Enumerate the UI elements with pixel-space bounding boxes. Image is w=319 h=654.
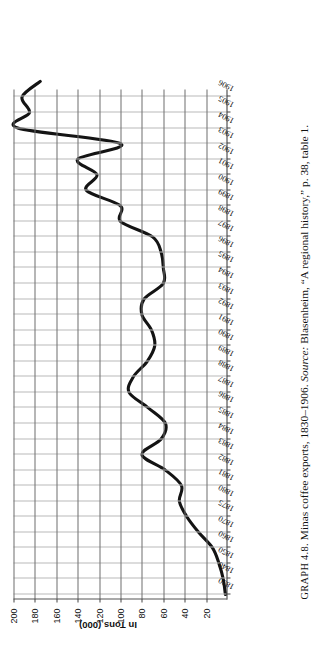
category-gridline [13, 158, 226, 159]
category-gridline [13, 593, 226, 594]
value-axis-title: In Tons (000) [1, 620, 215, 631]
category-gridline [13, 142, 226, 143]
category-gridline [13, 562, 226, 563]
category-gridline [13, 313, 226, 314]
category-gridline [13, 251, 226, 252]
value-gridline [184, 89, 185, 598]
value-tick [141, 598, 142, 602]
category-gridline [13, 204, 226, 205]
category-gridline [13, 391, 226, 392]
value-tick-label: 60 [158, 608, 168, 618]
value-gridline [34, 89, 35, 598]
category-gridline [13, 298, 226, 299]
caption-title: Minas coffee exports, 1830–1906. [297, 381, 309, 542]
category-gridline [13, 438, 226, 439]
value-tick [184, 598, 185, 602]
category-gridline [13, 406, 226, 407]
caption-source-label: Source: [297, 346, 309, 381]
value-tick [120, 598, 121, 602]
value-gridline [13, 89, 14, 598]
value-tick-label: 20 [201, 608, 211, 618]
value-tick [99, 598, 100, 602]
value-tick-label: 40 [179, 608, 189, 618]
category-gridline [13, 95, 226, 96]
plot-area [13, 89, 227, 599]
category-gridline [13, 484, 226, 485]
value-tick-label: 80 [136, 608, 146, 618]
caption-graph-number: GRAPH 4.8. [298, 543, 309, 599]
category-gridline [13, 531, 226, 532]
rotated-figure-container: 20018016014012010080604020 In Tons (000)… [0, 0, 319, 654]
category-gridline [13, 111, 226, 112]
value-tick [34, 598, 35, 602]
category-tick [226, 593, 230, 594]
category-gridline [13, 282, 226, 283]
category-gridline [13, 329, 226, 330]
category-gridline [13, 360, 226, 361]
category-gridline [13, 266, 226, 267]
category-gridline [13, 500, 226, 501]
value-tick [56, 598, 57, 602]
value-gridline [206, 89, 207, 598]
category-gridline [13, 220, 226, 221]
category-gridline [13, 375, 226, 376]
figure-caption: GRAPH 4.8. Minas coffee exports, 1830–19… [296, 39, 310, 599]
category-gridline [13, 235, 226, 236]
value-gridline [120, 89, 121, 598]
category-gridline [13, 422, 226, 423]
figure-inner: 20018016014012010080604020 In Tons (000)… [0, 0, 319, 654]
value-tick [13, 598, 14, 602]
value-gridline [99, 89, 100, 598]
category-gridline [13, 344, 226, 345]
category-gridline [13, 577, 226, 578]
category-axis-tick-labels: 1830184018501860187018751880188118821883… [231, 89, 289, 599]
category-gridline [13, 546, 226, 547]
category-gridline [13, 469, 226, 470]
caption-source-text: Blasenheim, “A regional history,” p. 38,… [297, 124, 309, 346]
value-gridline [56, 89, 57, 598]
value-tick [163, 598, 164, 602]
category-gridline [13, 127, 226, 128]
value-tick [77, 598, 78, 602]
category-gridline [13, 173, 226, 174]
value-tick [206, 598, 207, 602]
category-gridline [13, 189, 226, 190]
category-gridline [13, 453, 226, 454]
value-gridline [163, 89, 164, 598]
value-gridline [77, 89, 78, 598]
category-gridline [13, 515, 226, 516]
value-gridline [141, 89, 142, 598]
